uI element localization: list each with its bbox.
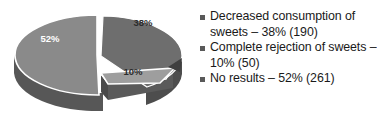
legend-item-complete-rejection[interactable]: Complete rejection of sweets – 10% (50)	[200, 40, 377, 71]
legend-label-line1: Complete rejection of	[210, 40, 325, 54]
pie-chart-plot: 38% 10% 52%	[0, 0, 196, 119]
legend-marker-decreased-consumption	[200, 15, 205, 20]
legend-marker-no-results	[200, 77, 205, 82]
legend-label-no-results: No results – 52% (261)	[210, 71, 335, 87]
pie-chart-figure: 38% 10% 52% Decreased consumption of swe…	[0, 0, 377, 119]
slice-label-38: 38%	[133, 17, 153, 28]
legend-label-line1: Decreased consumption	[210, 9, 342, 23]
legend-marker-complete-rejection	[200, 46, 205, 51]
slice-label-10: 10%	[123, 66, 143, 77]
chart-legend: Decreased consumption of sweets – 38% (1…	[200, 9, 377, 110]
legend-label-complete-rejection: Complete rejection of sweets – 10% (50)	[210, 40, 377, 71]
legend-item-no-results[interactable]: No results – 52% (261)	[200, 71, 377, 87]
legend-item-decreased-consumption[interactable]: Decreased consumption of sweets – 38% (1…	[200, 9, 377, 40]
slice-label-52: 52%	[40, 33, 60, 44]
pie-chart-svg: 38% 10% 52%	[0, 0, 196, 119]
legend-label-decreased-consumption: Decreased consumption of sweets – 38% (1…	[210, 9, 377, 40]
